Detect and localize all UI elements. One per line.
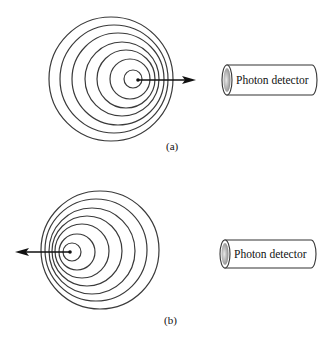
detector-label-b: Photon detector bbox=[234, 248, 307, 260]
panel-a: Photon detector (a) bbox=[49, 17, 317, 153]
wavefront-rings-a bbox=[49, 17, 173, 141]
panel-b: Photon detector (b) bbox=[15, 191, 316, 327]
wavefront-ring bbox=[85, 42, 159, 116]
detector-lens-icon bbox=[222, 243, 229, 265]
photon-detector-b: Photon detector bbox=[220, 240, 316, 268]
wavefront-ring bbox=[60, 25, 168, 133]
panel-label-a: (a) bbox=[166, 140, 179, 153]
detector-label-a: Photon detector bbox=[236, 74, 309, 86]
panel-label-b: (b) bbox=[164, 314, 177, 327]
velocity-arrow-a bbox=[136, 76, 196, 84]
doppler-diagram: Photon detector (a) Photon detector (b) bbox=[0, 0, 332, 340]
detector-lens-icon bbox=[224, 68, 231, 92]
wavefront-rings-b bbox=[41, 191, 159, 309]
wavefront-ring bbox=[110, 59, 150, 99]
wavefront-ring bbox=[97, 50, 155, 108]
wavefront-ring bbox=[45, 199, 147, 301]
photon-detector-a: Photon detector bbox=[222, 65, 317, 95]
wavefront-ring bbox=[49, 17, 173, 141]
